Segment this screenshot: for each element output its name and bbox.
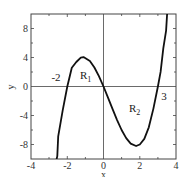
y-tick-label-0: 0 (23, 81, 28, 92)
region-r2-label: R2 (129, 102, 140, 117)
x-axis-label: x (101, 169, 106, 177)
cubic-curve (56, 1, 168, 164)
x-tick-label-neg4: -4 (27, 160, 35, 171)
x-tick-label-2: 2 (137, 160, 142, 171)
root-label-3: 3 (161, 90, 167, 102)
x-tick-label-neg2: -2 (63, 160, 71, 171)
y-tick-label-4: 4 (23, 52, 28, 63)
y-axis-label: y (5, 85, 16, 90)
y-tick-label-neg4: -4 (20, 110, 28, 121)
cubic-function-plot: 8 4 0 -4 -8 -4 -2 0 2 4 x y -2 3 R1 R2 (0, 0, 188, 177)
y-tick-label-neg8: -8 (20, 139, 28, 150)
y-tick-label-8: 8 (23, 23, 28, 34)
x-tick-label-4: 4 (174, 160, 179, 171)
region-r1-label: R1 (80, 69, 91, 84)
root-label-neg2: -2 (51, 71, 60, 83)
